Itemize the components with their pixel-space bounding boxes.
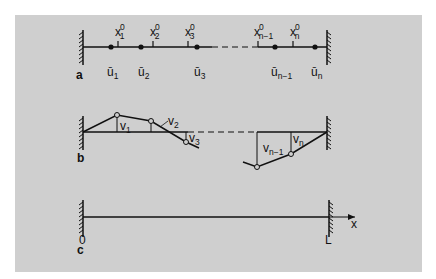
right-wall-icon: [327, 30, 331, 65]
right-wall-icon: [329, 200, 333, 237]
panel-c: 0 L x c: [77, 200, 357, 257]
left-wall-icon: [79, 200, 83, 237]
panel-label-a: a: [76, 68, 83, 82]
label-x-axis: x: [351, 217, 357, 231]
left-wall-icon: [79, 116, 83, 150]
label-x2-0: x02: [150, 22, 160, 41]
left-wall-icon: [79, 30, 83, 65]
label-x3-0: x03: [185, 22, 195, 41]
label-u2: ū2: [138, 65, 150, 81]
label-un-1: ūn−1: [271, 65, 292, 81]
label-u3: ū3: [194, 65, 206, 81]
label-xn-0: x0n: [290, 22, 300, 41]
right-wall-icon: [327, 116, 331, 150]
label-xn-1-0: x0n−1: [254, 22, 273, 41]
panel-a: x01 x02 x03 x0n−1 x0n ū1 ū2 ū3 ūn−1 ūn a: [76, 22, 331, 82]
label-v2: v2: [168, 114, 179, 130]
diagram-canvas: x01 x02 x03 x0n−1 x0n ū1 ū2 ū3 ūn−1 ūn a: [0, 0, 436, 279]
label-v3: v3: [189, 131, 200, 147]
label-vn: vn: [293, 132, 304, 148]
panel-label-b: b: [77, 151, 84, 165]
label-un: ūn: [311, 65, 323, 81]
label-x1-0: x01: [115, 22, 125, 41]
label-v1: v1: [120, 119, 131, 135]
reference-ticks: [118, 41, 293, 47]
label-u1: ū1: [107, 65, 119, 81]
panel-label-c: c: [77, 243, 84, 257]
label-L: L: [325, 233, 332, 247]
panel-b: v1 v2 v3 vn−1 vn b: [77, 113, 331, 170]
label-vn-1: vn−1: [263, 141, 284, 157]
